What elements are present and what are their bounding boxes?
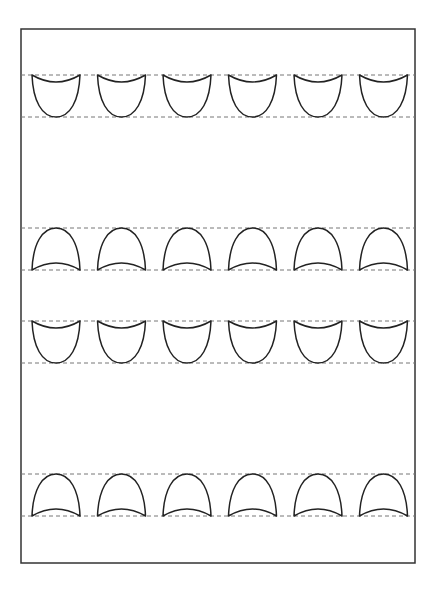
arch-shape-icon	[98, 228, 146, 270]
arch-shape-icon	[163, 474, 211, 516]
cup-shape-icon	[163, 321, 211, 363]
cup-shape-icon	[360, 321, 408, 363]
arch-shape-icon	[294, 474, 342, 516]
cup-shape-icon	[294, 321, 342, 363]
shape-row-3	[21, 321, 415, 363]
cup-shape-icon	[294, 75, 342, 117]
cup-shape-icon	[32, 321, 80, 363]
shape-rows	[21, 75, 415, 516]
worksheet-border	[21, 29, 415, 563]
cup-shape-icon	[360, 75, 408, 117]
cup-shape-icon	[32, 75, 80, 117]
arch-shape-icon	[294, 228, 342, 270]
cup-shape-icon	[98, 75, 146, 117]
arch-shape-icon	[360, 228, 408, 270]
shape-row-4	[21, 474, 415, 516]
arch-shape-icon	[229, 228, 277, 270]
cup-shape-icon	[229, 75, 277, 117]
cup-shape-icon	[98, 321, 146, 363]
arch-shape-icon	[229, 474, 277, 516]
arch-shape-icon	[32, 474, 80, 516]
tracing-worksheet	[0, 0, 438, 592]
arch-shape-icon	[32, 228, 80, 270]
shape-row-1	[21, 75, 415, 117]
shape-row-2	[21, 228, 415, 270]
cup-shape-icon	[229, 321, 277, 363]
arch-shape-icon	[98, 474, 146, 516]
arch-shape-icon	[163, 228, 211, 270]
arch-shape-icon	[360, 474, 408, 516]
cup-shape-icon	[163, 75, 211, 117]
